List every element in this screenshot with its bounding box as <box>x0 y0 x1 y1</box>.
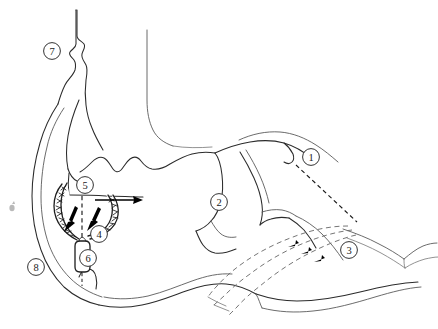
chamber-right-boundary <box>196 153 223 231</box>
callout-5-label: 5 <box>82 180 87 191</box>
figure-canvas: 1 2 3 4 5 6 <box>0 0 438 329</box>
annotation-arrows <box>64 165 357 316</box>
callout-7[interactable]: 7 <box>44 43 61 60</box>
vessel-trunk-inner-right <box>77 10 103 150</box>
leader-line-callout-1 <box>296 165 357 222</box>
callout-2-label: 2 <box>216 197 221 208</box>
callout-6[interactable]: 6 <box>80 250 97 267</box>
callout-3[interactable]: 3 <box>341 242 358 259</box>
chamber-inner-lower <box>104 274 232 299</box>
callout-6-label: 6 <box>85 253 90 264</box>
dashed-flow-convergence <box>208 297 229 311</box>
great-vessel-branch-a <box>240 152 262 225</box>
right-bifurcation-split-upper <box>404 243 437 259</box>
septal-ridge <box>196 231 236 253</box>
dashed-flow-line-outer-head <box>288 240 299 247</box>
septal-ridge-inner <box>211 221 236 237</box>
great-vessel-branch-a-inner <box>246 150 269 203</box>
valve-leaflets <box>80 152 215 172</box>
anatomy-outlines <box>9 10 438 312</box>
great-vessel-branch-c <box>289 218 316 248</box>
dashed-flow-line-middle <box>214 230 352 305</box>
callout-3-label: 3 <box>346 245 351 256</box>
chamber-shelf <box>69 195 143 197</box>
upper-vessel-trunk-left-edge <box>58 10 76 104</box>
dashed-flow-line-inner-head <box>314 255 325 262</box>
chamber-wall-left-inner <box>67 100 80 169</box>
callout-4-label: 4 <box>96 229 102 240</box>
image-speck <box>9 205 14 211</box>
lower-outflow-lower <box>262 287 421 312</box>
callout-8[interactable]: 8 <box>28 259 45 276</box>
callout-4[interactable]: 4 <box>91 226 108 243</box>
great-vessel-branch-b <box>260 217 289 225</box>
dashed-flow-line-outer <box>208 226 348 297</box>
secondary-vessel-trunk-right <box>173 146 212 148</box>
anatomical-figure: 1 2 3 4 5 6 <box>0 0 438 329</box>
image-speck-tail <box>12 201 15 204</box>
right-bifurcation-notch <box>404 259 405 268</box>
callout-1-label: 1 <box>308 152 313 163</box>
great-vessel-branch-b-inner <box>262 210 296 216</box>
chamber-lower-boundary <box>99 284 256 307</box>
right-bifurcation-split-lower <box>405 257 438 268</box>
great-vessel-main <box>215 141 311 158</box>
dashed-flow-line-middle-head <box>301 247 312 254</box>
callout-5[interactable]: 5 <box>77 177 94 194</box>
callout-7-label: 7 <box>49 46 54 57</box>
callout-8-label: 8 <box>33 262 38 273</box>
callout-1[interactable]: 1 <box>303 149 320 166</box>
secondary-vessel-trunk <box>147 30 173 146</box>
callout-2[interactable]: 2 <box>211 194 228 211</box>
